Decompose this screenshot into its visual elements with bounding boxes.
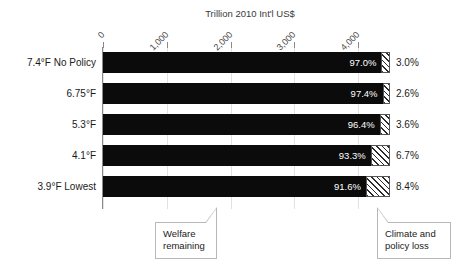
annotation-climate-policy-loss: Climate and policy loss <box>377 222 451 259</box>
bar-segment-climate-policy-loss <box>383 83 390 104</box>
bar-row: 4.1°F93.3%6.7% <box>0 145 455 166</box>
annotation-welfare-remaining: Welfare remaining <box>155 222 217 259</box>
loss-value-label: 3.0% <box>396 52 419 73</box>
annotation-line-2: policy loss <box>385 240 443 252</box>
category-label: 3.9°F Lowest <box>0 176 96 197</box>
bar-segment-welfare-remaining: 97.4% <box>103 83 383 104</box>
bar-row: 6.75°F97.4%2.6% <box>0 83 455 104</box>
category-label: 7.4°F No Policy <box>0 52 96 73</box>
bar-row: 3.9°F Lowest91.6%8.4% <box>0 176 455 197</box>
stacked-bar: 96.4% <box>103 114 390 135</box>
bar-segment-welfare-remaining: 97.0% <box>103 52 381 73</box>
category-label: 4.1°F <box>0 145 96 166</box>
axis-title: Trillion 2010 Int'l US$ <box>150 8 350 19</box>
bar-segment-welfare-remaining: 93.3% <box>103 145 371 166</box>
stacked-bar: 97.0% <box>103 52 390 73</box>
loss-value-label: 6.7% <box>396 145 419 166</box>
category-label: 5.3°F <box>0 114 96 135</box>
bar-segment-climate-policy-loss <box>366 176 390 197</box>
bar-chart: Trillion 2010 Int'l US$ 01,0002,0003,000… <box>0 0 455 262</box>
tick-mark <box>358 42 359 48</box>
bar-value-label: 93.3% <box>339 150 371 161</box>
tick-mark <box>294 42 295 48</box>
bar-row: 5.3°F96.4%3.6% <box>0 114 455 135</box>
stacked-bar: 93.3% <box>103 145 390 166</box>
bar-row: 7.4°F No Policy97.0%3.0% <box>0 52 455 73</box>
annotation-line-1: Welfare <box>163 228 209 240</box>
bar-value-label: 97.0% <box>349 57 381 68</box>
callout-tail-inner <box>378 209 388 223</box>
tick-mark <box>231 42 232 48</box>
bar-segment-climate-policy-loss <box>371 145 390 166</box>
stacked-bar: 97.4% <box>103 83 390 104</box>
loss-value-label: 3.6% <box>396 114 419 135</box>
bar-value-label: 97.4% <box>351 88 383 99</box>
bar-value-label: 91.6% <box>334 181 366 192</box>
bar-segment-welfare-remaining: 96.4% <box>103 114 380 135</box>
annotation-line-2: remaining <box>163 240 209 252</box>
bar-segment-climate-policy-loss <box>380 114 390 135</box>
tick-mark <box>103 42 104 48</box>
category-label: 6.75°F <box>0 83 96 104</box>
annotation-line-1: Climate and <box>385 228 443 240</box>
loss-value-label: 2.6% <box>396 83 419 104</box>
bar-segment-welfare-remaining: 91.6% <box>103 176 366 197</box>
bar-segment-climate-policy-loss <box>381 52 390 73</box>
stacked-bar: 91.6% <box>103 176 390 197</box>
loss-value-label: 8.4% <box>396 176 419 197</box>
tick-mark <box>167 42 168 48</box>
bar-value-label: 96.4% <box>348 119 380 130</box>
callout-tail-inner <box>206 209 216 223</box>
